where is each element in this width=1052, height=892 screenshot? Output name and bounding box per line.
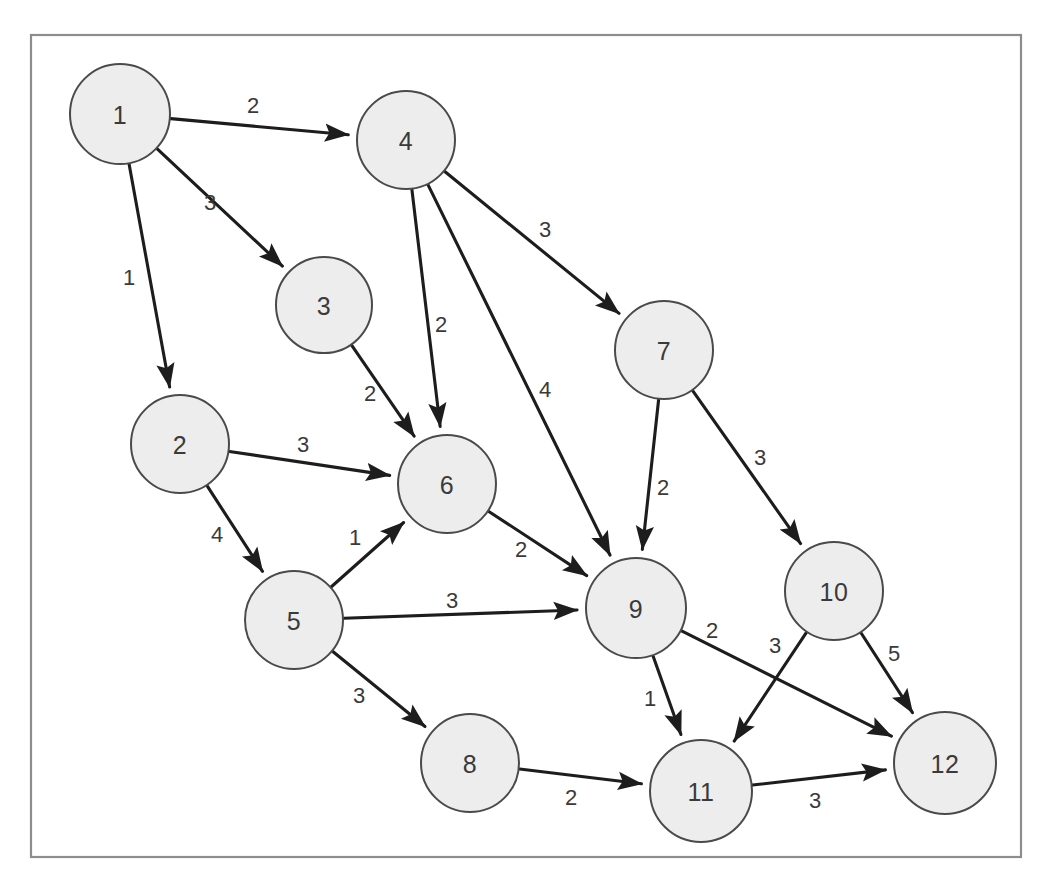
edge-weight-5-9: 3	[446, 588, 458, 613]
graph-edge-8-to-11	[520, 769, 642, 784]
graph-node-4[interactable]: 4	[357, 91, 455, 189]
graph-node-7[interactable]: 7	[615, 301, 713, 399]
graph-canvas: 231223434133223212353 123456789101112	[0, 0, 1052, 892]
node-label-7: 7	[657, 337, 671, 365]
nodes-layer: 123456789101112	[70, 64, 996, 842]
edge-weight-8-11: 2	[565, 785, 577, 810]
node-label-8: 8	[463, 750, 477, 778]
graph-edge-3-to-6	[352, 345, 414, 436]
graph-node-11[interactable]: 11	[650, 740, 752, 842]
graph-node-12[interactable]: 12	[894, 712, 996, 814]
node-label-5: 5	[287, 607, 301, 635]
edge-weight-9-11: 1	[644, 686, 656, 711]
graph-edge-4-to-7	[445, 172, 619, 314]
graph-edge-5-to-8	[333, 652, 425, 727]
graph-edge-10-to-12	[861, 633, 912, 713]
graph-node-5[interactable]: 5	[245, 571, 343, 669]
graph-edge-1-to-2	[129, 164, 170, 387]
node-label-3: 3	[317, 292, 331, 320]
graph-node-6[interactable]: 6	[398, 435, 496, 533]
edge-weight-11-12: 3	[809, 788, 821, 813]
graph-edge-4-to-6	[412, 190, 440, 427]
edge-weight-7-10: 3	[754, 445, 766, 470]
graph-node-10[interactable]: 10	[785, 542, 883, 640]
edges-layer	[129, 119, 912, 785]
node-label-9: 9	[629, 595, 643, 623]
graph-node-1[interactable]: 1	[70, 64, 170, 164]
edge-weight-4-7: 3	[539, 217, 551, 242]
edge-weight-3-6: 2	[364, 381, 376, 406]
node-label-12: 12	[931, 750, 960, 778]
graph-edge-11-to-12	[753, 770, 886, 785]
graph-node-3[interactable]: 3	[276, 257, 372, 353]
edge-weight-4-6: 2	[435, 312, 447, 337]
node-label-4: 4	[399, 127, 413, 155]
edge-weight-1-4: 2	[247, 93, 259, 118]
graph-node-2[interactable]: 2	[131, 395, 229, 493]
edge-weight-6-9: 2	[515, 537, 527, 562]
edge-weight-10-11: 3	[769, 633, 781, 658]
node-label-6: 6	[440, 471, 454, 499]
edge-weight-10-12: 5	[888, 641, 900, 666]
graph-edge-6-to-9	[489, 511, 587, 575]
graph-edge-5-to-9	[344, 610, 577, 618]
graph-edge-2-to-6	[229, 451, 389, 475]
edge-weight-9-12: 2	[706, 618, 718, 643]
graph-edge-9-to-11	[653, 656, 681, 734]
graph-edge-5-to-6	[331, 523, 403, 587]
node-label-2: 2	[173, 431, 187, 459]
node-label-10: 10	[820, 578, 849, 606]
edge-weight-1-2: 1	[123, 265, 135, 290]
graph-edge-1-to-3	[157, 149, 282, 266]
edge-weight-5-6: 1	[349, 525, 361, 550]
edge-weight-4-9: 4	[539, 377, 551, 402]
graph-edge-7-to-10	[693, 391, 801, 544]
edge-weight-2-5: 4	[211, 522, 223, 547]
node-label-1: 1	[113, 101, 127, 129]
edge-weight-1-3: 3	[204, 190, 216, 215]
graph-edge-1-to-4	[171, 119, 348, 135]
edge-weight-7-9: 2	[657, 475, 669, 500]
node-label-11: 11	[688, 778, 715, 806]
graph-figure: 231223434133223212353 123456789101112	[0, 0, 1052, 892]
edge-weight-5-8: 3	[353, 683, 365, 708]
graph-edge-9-to-12	[682, 631, 892, 736]
edge-weight-2-6: 3	[297, 432, 309, 457]
graph-node-9[interactable]: 9	[586, 558, 686, 658]
graph-node-8[interactable]: 8	[421, 714, 519, 812]
